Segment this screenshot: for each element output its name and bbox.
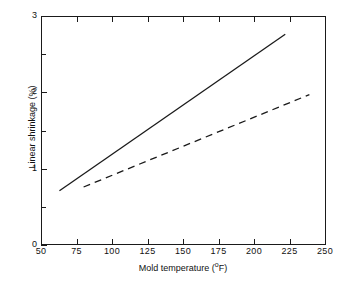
x-tick-225 — [290, 239, 291, 245]
y-minor-tick-0.5 — [41, 207, 46, 208]
plot-frame-right — [325, 16, 326, 245]
y-tick-0 — [41, 245, 47, 246]
x-tick-top-225 — [290, 16, 291, 22]
x-tick-label-100: 100 — [92, 246, 132, 256]
x-tick-150 — [183, 239, 184, 245]
x-tick-label-75: 75 — [57, 246, 97, 256]
x-axis-title: Mold temperature (oF) — [41, 261, 325, 273]
y-tick-label-3: 3 — [24, 10, 37, 20]
x-tick-top-150 — [183, 16, 184, 22]
y-minor-tick-1.5 — [41, 131, 46, 132]
x-tick-top-200 — [254, 16, 255, 22]
x-tick-label-150: 150 — [163, 246, 203, 256]
y-tick-3 — [41, 16, 47, 17]
x-tick-top-100 — [112, 16, 113, 22]
y-tick-1 — [41, 169, 47, 170]
x-tick-top-125 — [148, 16, 149, 22]
x-tick-label-225: 225 — [270, 246, 310, 256]
x-tick-top-175 — [219, 16, 220, 22]
x-tick-250 — [325, 239, 326, 245]
chart-figure: 5075100125150175200225250 0123 Mold temp… — [0, 0, 353, 283]
x-tick-label-200: 200 — [234, 246, 274, 256]
y-minor-tick-2.5 — [41, 54, 46, 55]
x-axis-title-text: Mold temperature ( — [139, 263, 215, 273]
plot-axes-frame — [41, 16, 325, 245]
x-tick-200 — [254, 239, 255, 245]
y-tick-2 — [41, 92, 47, 93]
x-tick-top-75 — [77, 16, 78, 22]
x-tick-label-250: 250 — [305, 246, 345, 256]
y-tick-label-0: 0 — [24, 239, 37, 249]
y-axis-title: Linear shrinkage (%) — [27, 47, 37, 207]
x-tick-175 — [219, 239, 220, 245]
x-tick-75 — [77, 239, 78, 245]
x-tick-100 — [112, 239, 113, 245]
x-tick-125 — [148, 239, 149, 245]
x-tick-label-175: 175 — [199, 246, 239, 256]
x-axis-title-tail: F) — [219, 263, 228, 273]
x-tick-label-125: 125 — [128, 246, 168, 256]
